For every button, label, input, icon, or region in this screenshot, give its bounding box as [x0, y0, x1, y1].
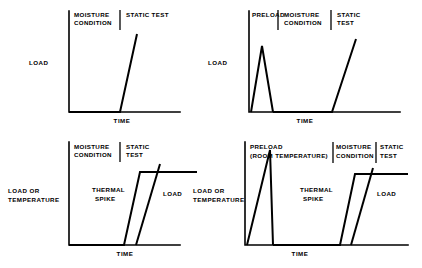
panel4-thermal-spike-trace [273, 174, 408, 245]
four-panel-load-time-diagram: MOISTURE CONDITION STATIC TEST LOAD TIME… [0, 0, 422, 268]
panel1-x-axis-label: TIME [114, 117, 131, 124]
panel4-curve-load: LOAD [377, 190, 396, 197]
panel2-phase-static-line1: STATIC [337, 11, 361, 18]
figure-container: MOISTURE CONDITION STATIC TEST LOAD TIME… [0, 0, 422, 268]
panel-bottom-right: PRELOAD (ROOM TEMPERATURE) MOISTURE COND… [193, 142, 408, 257]
panel4-phase-static-line1: STATIC [380, 143, 404, 150]
panel2-axes [249, 11, 400, 112]
panel4-y-axis-label-line1: LOAD OR [193, 187, 225, 194]
panel-top-left: MOISTURE CONDITION STATIC TEST LOAD TIME [29, 10, 180, 124]
panel2-y-axis-label: LOAD [208, 59, 227, 66]
panel1-axes [69, 11, 180, 112]
panel2-phase-preload: PRELOAD [252, 11, 285, 18]
panel2-phase-static-line2: TEST [337, 19, 354, 26]
panel3-phase-static-line2: TEST [126, 151, 143, 158]
panel1-phase-moisture-line2: CONDITION [74, 19, 112, 26]
panel-top-right: PRELOAD MOISTURE CONDITION STATIC TEST L… [208, 10, 400, 124]
panel1-phase-moisture-line1: MOISTURE [74, 11, 109, 18]
panel3-y-axis-label-line2: TEMPERATURE [8, 196, 60, 203]
panel-bottom-left: MOISTURE CONDITION STATIC TEST THERMAL S… [8, 142, 197, 257]
panel2-phase-moisture-line1: MOISTURE [284, 11, 319, 18]
panel4-curve-thermal-line2: SPIKE [303, 195, 324, 202]
panel3-phase-static-line1: STATIC [126, 143, 150, 150]
panel3-y-axis-label-line1: LOAD OR [8, 187, 40, 194]
panel4-phase-preload-line2: (ROOM TEMPERATURE) [250, 152, 328, 159]
panel4-phase-moisture-line2: CONDITION [336, 152, 374, 159]
panel3-curve-load: LOAD [163, 190, 182, 197]
panel1-phase-static: STATIC TEST [126, 11, 169, 18]
panel3-thermal-spike-trace [69, 172, 197, 245]
panel2-phase-moisture-line2: CONDITION [284, 19, 322, 26]
panel3-phase-moisture-line1: MOISTURE [74, 143, 109, 150]
panel3-curve-thermal-line1: THERMAL [92, 186, 125, 193]
panel1-y-axis-label: LOAD [29, 59, 48, 66]
panel1-static-test-trace [69, 34, 137, 112]
panel4-curve-thermal-line1: THERMAL [300, 186, 333, 193]
panel3-curve-thermal-line2: SPIKE [95, 195, 116, 202]
panel3-x-axis-label: TIME [117, 250, 134, 257]
panel2-preload-trace [251, 46, 273, 112]
panel4-phase-static-line2: TEST [380, 152, 397, 159]
panel4-phase-moisture-line1: MOISTURE [336, 143, 371, 150]
panel2-static-test-trace [273, 39, 356, 112]
panel4-x-axis-label: TIME [292, 250, 309, 257]
panel3-phase-moisture-line2: CONDITION [74, 151, 112, 158]
panel4-phase-preload-line1: PRELOAD [250, 143, 283, 150]
panel4-preload-trace [247, 150, 273, 245]
panel2-x-axis-label: TIME [297, 117, 314, 124]
panel4-y-axis-label-line2: TEMPERATURE [193, 196, 245, 203]
